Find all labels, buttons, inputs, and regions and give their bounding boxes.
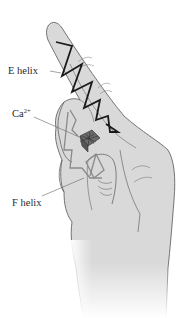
calcium-label: Ca2+ xyxy=(12,108,31,120)
f-helix-label: F helix xyxy=(12,198,41,209)
hand-illustration xyxy=(0,0,192,318)
calcium-label-charge: 2+ xyxy=(24,107,31,114)
hand-shape xyxy=(47,22,181,318)
ef-hand-diagram: E helix Ca2+ F helix xyxy=(0,0,192,318)
e-helix-label: E helix xyxy=(8,66,38,77)
e-helix-leader xyxy=(50,71,61,73)
calcium-label-base: Ca xyxy=(12,108,24,119)
